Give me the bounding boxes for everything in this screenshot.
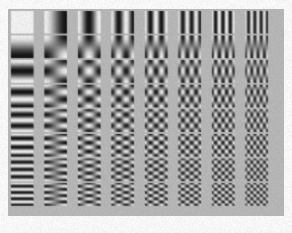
figure-root [0, 0, 292, 233]
dct-basis-panel [8, 9, 284, 216]
dct-basis-grid [8, 9, 284, 216]
